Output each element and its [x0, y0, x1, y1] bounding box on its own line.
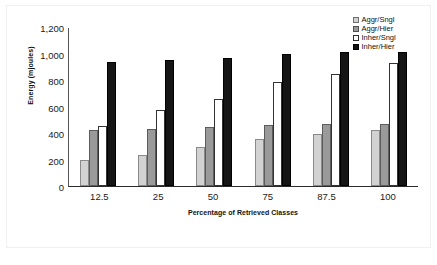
y-axis-tick-labels: 1,2001,0008006004002000 — [24, 0, 64, 265]
bar — [371, 130, 380, 186]
bar-group — [255, 28, 291, 186]
bar-group — [80, 28, 116, 186]
bar — [165, 60, 174, 186]
bar — [264, 125, 273, 186]
bar-group — [196, 28, 232, 186]
x-axis-tick: 50 — [208, 191, 219, 202]
bar — [107, 62, 116, 186]
bar — [196, 147, 205, 186]
x-axis-tick: 75 — [262, 191, 273, 202]
y-axis-tick: 800 — [24, 76, 64, 87]
bar — [156, 110, 165, 186]
x-axis-tick: 12.5 — [90, 191, 109, 202]
bar — [380, 124, 389, 186]
legend-item: Inher/Sngl — [353, 34, 396, 42]
bar — [255, 139, 264, 186]
legend-item: Inher/Hier — [353, 43, 396, 51]
bar — [389, 63, 398, 186]
bar — [340, 52, 349, 186]
bar — [331, 74, 340, 186]
legend-swatch-icon — [353, 17, 359, 23]
bar-group — [313, 28, 349, 186]
legend-label: Inher/Sngl — [362, 34, 396, 42]
legend-swatch-icon — [353, 35, 359, 41]
bar — [205, 127, 214, 186]
bar — [273, 82, 282, 186]
bar — [223, 58, 232, 186]
legend-swatch-icon — [353, 44, 359, 50]
y-axis-tick: 1,200 — [24, 23, 64, 34]
x-axis-label: Percentage of Retrieved Classes — [68, 209, 418, 216]
y-axis-tick: 200 — [24, 155, 64, 166]
y-axis-tick: 0 — [24, 182, 64, 193]
y-axis-tick: 400 — [24, 129, 64, 140]
bar — [98, 126, 107, 186]
legend-label: Inher/Hier — [362, 43, 395, 51]
legend-item: Aggr/Sngl — [353, 16, 396, 24]
bar — [282, 54, 291, 186]
x-axis-tick: 87.5 — [317, 191, 336, 202]
bar — [89, 130, 98, 186]
chart-legend: Aggr/SnglAggr/HierInher/SnglInher/Hier — [351, 14, 398, 53]
x-axis-tick: 100 — [380, 191, 396, 202]
x-axis-tick: 25 — [153, 191, 164, 202]
y-axis-tick: 600 — [24, 102, 64, 113]
bar — [214, 99, 223, 186]
legend-label: Aggr/Sngl — [362, 16, 395, 24]
bar — [322, 124, 331, 186]
y-axis-tick: 1,000 — [24, 49, 64, 60]
chart-figure: Energy (mjoules) 1,2001,0008006004002000… — [0, 0, 437, 265]
legend-swatch-icon — [353, 26, 359, 32]
legend-item: Aggr/Hier — [353, 25, 396, 33]
bar — [147, 129, 156, 186]
bar — [138, 155, 147, 186]
legend-label: Aggr/Hier — [362, 25, 394, 33]
bar — [313, 134, 322, 186]
x-axis-tick-labels: 12.525507587.5100 — [68, 191, 418, 202]
bar-group — [138, 28, 174, 186]
bar — [398, 52, 407, 186]
bar — [80, 160, 89, 187]
